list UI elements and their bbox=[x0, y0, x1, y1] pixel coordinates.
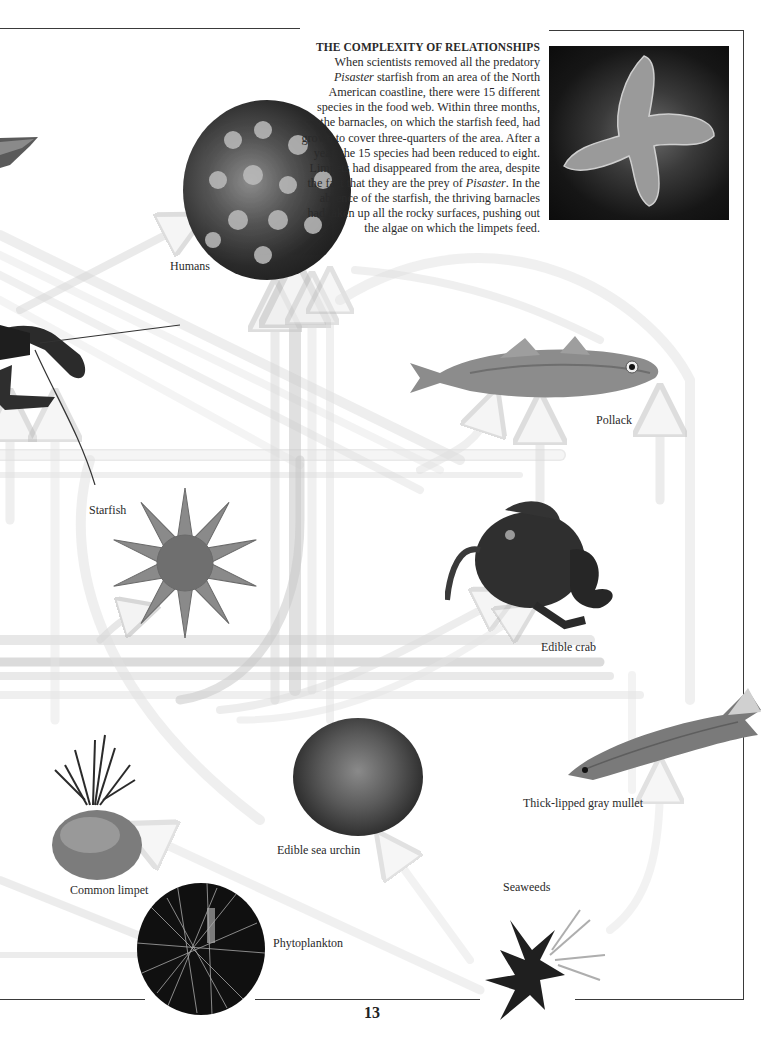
starfish-image bbox=[108, 485, 263, 645]
phytoplankton-label: Phytoplankton bbox=[273, 936, 343, 951]
sidebar-body: When scientists removed all the predator… bbox=[300, 55, 540, 236]
common-limpet-image bbox=[35, 730, 145, 880]
phytoplankton-photo bbox=[137, 883, 265, 1015]
sea-urchin-label: Edible sea urchin bbox=[277, 843, 360, 858]
partial-fish-image bbox=[0, 130, 40, 175]
sidebar-title: THE COMPLEXITY OF RELATIONSHIPS bbox=[300, 40, 540, 55]
humans-label: Humans bbox=[170, 259, 210, 274]
edible-crab-image bbox=[445, 490, 625, 635]
pollack-image bbox=[400, 333, 665, 423]
common-limpet-label: Common limpet bbox=[70, 883, 148, 898]
sea-urchin-image bbox=[293, 718, 423, 836]
lobster-image bbox=[0, 315, 190, 485]
mullet-label: Thick-lipped gray mullet bbox=[523, 796, 643, 811]
seaweeds-label: Seaweeds bbox=[503, 880, 550, 895]
pisaster-starfish-photo bbox=[549, 46, 729, 220]
mullet-image bbox=[563, 680, 763, 785]
starfish-label: Starfish bbox=[89, 503, 126, 518]
seaweeds-image bbox=[470, 900, 615, 1025]
complexity-sidebar: THE COMPLEXITY OF RELATIONSHIPS When sci… bbox=[300, 40, 540, 236]
page-number: 13 bbox=[364, 1004, 380, 1022]
edible-crab-label: Edible crab bbox=[541, 640, 596, 655]
pollack-label: Pollack bbox=[596, 413, 632, 428]
